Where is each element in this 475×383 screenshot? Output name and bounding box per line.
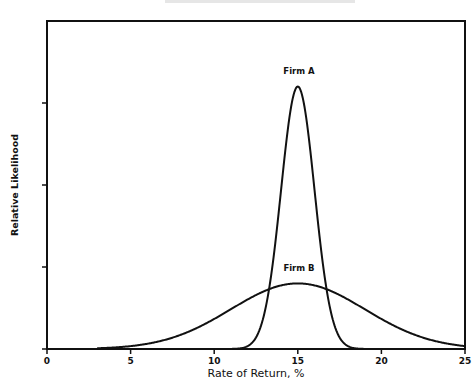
x-axis-label: Rate of Return, % (208, 367, 305, 380)
y-axis-label: Relative Likelihood (9, 134, 20, 236)
firm-b-label: Firm B (283, 263, 314, 273)
x-tick-label: 10 (208, 356, 221, 366)
plot-frame (47, 21, 465, 349)
x-tick-label: 25 (459, 356, 472, 366)
firm-b-curve (97, 283, 465, 348)
x-axis-tick-labels: 0510152025 (44, 356, 471, 366)
x-tick-label: 20 (375, 356, 388, 366)
x-tick-label: 15 (292, 356, 305, 366)
firm-a-label: Firm A (283, 66, 315, 76)
x-tick-label: 0 (44, 356, 50, 366)
probability-distribution-chart: 0510152025 Firm A Firm B Rate of Return,… (0, 0, 475, 383)
x-tick-label: 5 (127, 356, 133, 366)
clipped-title-fragment (165, 0, 355, 3)
firm-a-curve (231, 87, 365, 349)
